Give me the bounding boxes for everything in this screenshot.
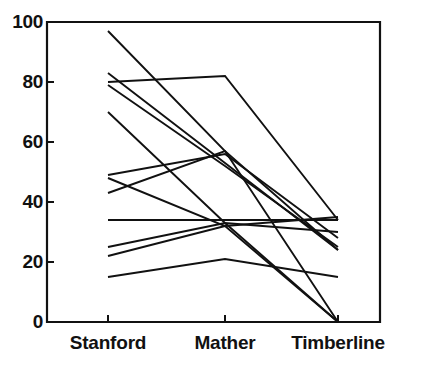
series-line-subject-8 xyxy=(108,151,338,250)
series-line-subject-7 xyxy=(108,178,338,322)
y-tick-label-40: 40 xyxy=(0,191,43,213)
series-line-subject-5 xyxy=(108,112,338,322)
x-tick-label-mather: Mather xyxy=(165,332,285,354)
axis-frame xyxy=(47,22,380,322)
y-tick-label-60: 60 xyxy=(0,131,43,153)
series-lines xyxy=(108,31,338,322)
series-line-subject-12 xyxy=(108,259,338,277)
slope-chart: 100 80 60 40 20 0 Stanford Mather Timber… xyxy=(0,0,421,382)
plot-area xyxy=(0,0,421,382)
y-tick-label-100: 100 xyxy=(0,11,43,33)
x-tick-label-stanford: Stanford xyxy=(48,332,168,354)
x-tick-label-timberline: Timberline xyxy=(274,332,402,354)
y-tick-label-20: 20 xyxy=(0,251,43,273)
y-tick-label-0: 0 xyxy=(0,311,43,333)
plot-border xyxy=(47,22,380,322)
y-tick-label-80: 80 xyxy=(0,71,43,93)
